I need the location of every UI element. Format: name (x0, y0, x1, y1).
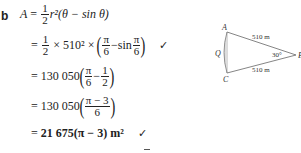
formula-line-2: = 1 2 × 510² × ( π 6 −sin π 6 ) ✓ (31, 33, 168, 57)
vertex-c-label: C (223, 75, 229, 84)
vertex-b-label: B (298, 51, 301, 60)
vertex-a-label: A (221, 23, 227, 32)
check-mark-icon: ✓ (159, 39, 168, 52)
formula-line-5: = 21 675(π − 3) m² ✓ (31, 126, 147, 141)
formula-line-3: = 130 050 ( π 6 − 1 2 ) (31, 64, 114, 88)
check-mark-icon: ✓ (138, 127, 147, 140)
side-bottom-label: 510 m (252, 66, 270, 74)
formula-rest: r²(θ − sin θ) (50, 7, 109, 22)
formula-line-4: = 130 050 ( π − 3 6 ) (31, 94, 115, 118)
formula-line-1: A = 1 2 r²(θ − sin θ) (20, 3, 109, 26)
angle-label: 30° (272, 51, 282, 59)
part-label: b (1, 9, 8, 23)
side-top-label: 510 m (252, 33, 270, 41)
area-symbol: A (20, 7, 27, 22)
sector-diagram: A C B Q 510 m 510 m 30° (190, 20, 301, 90)
divider-mark (144, 149, 150, 150)
arc-point-q-label: Q (215, 49, 221, 58)
fraction-half: 1 2 (41, 3, 49, 26)
final-answer: 21 675(π − 3) m² (41, 126, 124, 141)
